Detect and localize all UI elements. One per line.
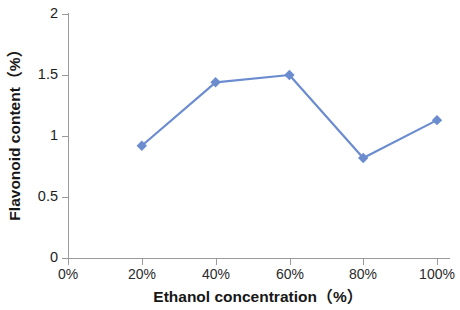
- y-tick-mark: [62, 75, 68, 76]
- x-tick-mark: [68, 259, 69, 265]
- y-tick-label: 1: [12, 127, 58, 143]
- x-tick-label: 0%: [38, 266, 98, 282]
- data-point-marker: [210, 77, 220, 87]
- y-tick-label: 0.5: [12, 188, 58, 204]
- data-point-marker: [284, 70, 294, 80]
- y-tick-label: 1.5: [12, 66, 58, 82]
- data-point-marker: [358, 153, 368, 163]
- y-tick-label: 2: [12, 5, 58, 21]
- data-point-marker: [432, 115, 442, 125]
- x-axis-line: [68, 258, 450, 259]
- x-tick-label: 60%: [260, 266, 320, 282]
- y-tick-label: 0: [12, 249, 58, 265]
- x-tick-label: 100%: [407, 266, 460, 282]
- y-tick-mark: [62, 197, 68, 198]
- y-axis-line: [68, 13, 69, 259]
- series-line: [142, 75, 437, 158]
- x-tick-label: 20%: [112, 266, 172, 282]
- x-tick-mark: [290, 259, 291, 265]
- x-tick-label: 40%: [186, 266, 246, 282]
- chart-figure: Flavonoid content（%） Ethanol concentrati…: [0, 0, 460, 310]
- x-tick-mark: [437, 259, 438, 265]
- y-tick-mark: [62, 14, 68, 15]
- series-markers: [137, 70, 443, 163]
- x-axis-title: Ethanol concentration（%）: [68, 284, 448, 306]
- data-point-marker: [137, 141, 147, 151]
- x-tick-label: 80%: [333, 266, 393, 282]
- y-tick-mark: [62, 136, 68, 137]
- series-layer: [0, 0, 460, 310]
- x-tick-mark: [216, 259, 217, 265]
- x-tick-mark: [363, 259, 364, 265]
- x-tick-mark: [142, 259, 143, 265]
